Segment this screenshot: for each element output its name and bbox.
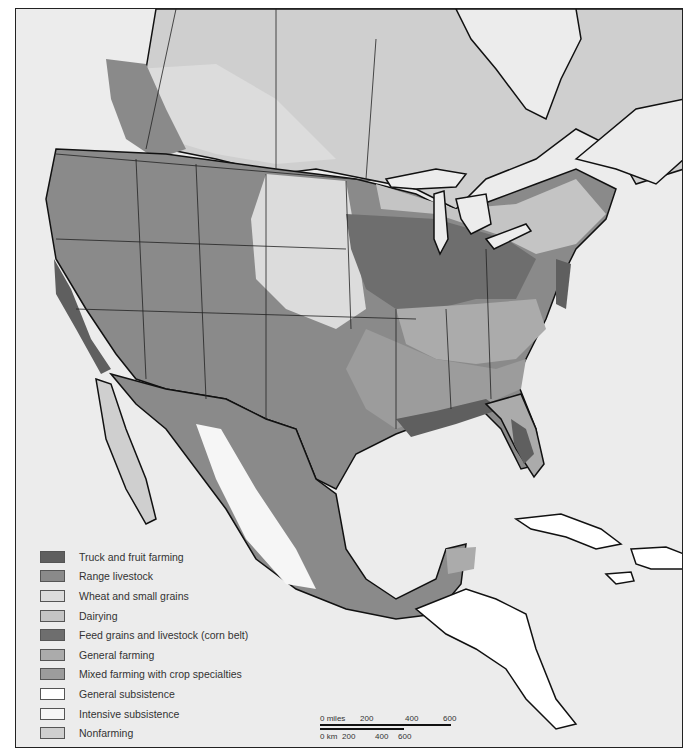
legend-item: General subsistence [40,684,290,704]
legend-swatch [40,727,65,739]
scale-km-tick: 200 [342,732,355,741]
central-america-subsistence [416,589,576,729]
legend-label: Mixed farming with crop specialties [79,668,242,680]
legend-item: Nonfarming [40,723,290,743]
scale-km-tick: 400 [375,732,388,741]
legend-item: Range livestock [40,567,290,587]
legend-label: Truck and fruit farming [79,551,184,563]
legend-swatch [40,629,65,641]
scale-miles-tick: 200 [360,714,373,723]
legend-label: Feed grains and livestock (corn belt) [79,629,248,641]
legend: Truck and fruit farming Range livestock … [40,547,290,743]
legend-swatch [40,551,65,563]
map-frame: Truck and fruit farming Range livestock … [15,8,683,748]
legend-swatch [40,688,65,700]
scale-bar: 0 miles 200 400 600 0 km 200 400 600 [320,714,460,744]
legend-label: Intensive subsistence [79,708,179,720]
legend-swatch [40,610,65,622]
scale-km-line [320,728,404,730]
scale-miles-tick: 600 [443,714,456,723]
scale-miles-line [320,724,451,726]
hispaniola [631,547,683,569]
legend-item: Dairying [40,606,290,626]
legend-item: Feed grains and livestock (corn belt) [40,625,290,645]
atlantic-truck-farming [556,259,571,309]
legend-item: General farming [40,645,290,665]
jamaica [606,572,634,584]
legend-swatch [40,708,65,720]
legend-swatch [40,590,65,602]
legend-swatch [40,668,65,680]
scale-miles-label: 0 miles [320,714,345,723]
yucatan-general-farming [446,547,476,574]
scale-km-tick: 600 [398,732,411,741]
legend-label: Wheat and small grains [79,590,189,602]
cuba [516,514,621,549]
legend-label: Nonfarming [79,727,133,739]
legend-swatch [40,570,65,582]
legend-swatch [40,649,65,661]
legend-label: Range livestock [79,570,153,582]
legend-item: Wheat and small grains [40,586,290,606]
scale-km-label: 0 km [320,732,337,741]
legend-item: Truck and fruit farming [40,547,290,567]
legend-item: Mixed farming with crop specialties [40,665,290,685]
scale-miles-tick: 400 [405,714,418,723]
legend-label: General farming [79,649,154,661]
legend-label: General subsistence [79,688,175,700]
legend-label: Dairying [79,610,118,622]
legend-item: Intensive subsistence [40,704,290,724]
